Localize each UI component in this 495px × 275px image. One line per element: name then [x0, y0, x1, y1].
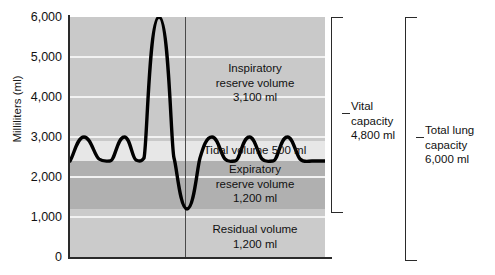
total-lung-capacity-bracket [405, 17, 417, 261]
label-vc-line2: capacity [351, 114, 395, 129]
y-tick-label-4000: 4,000 [16, 90, 62, 104]
label-tlc-line3: 6,000 ml [425, 152, 474, 167]
label-irv-line2: reserve volume [191, 76, 319, 91]
y-tick-label-3000: 3,000 [16, 130, 62, 144]
lung-volumes-spirogram-figure: Milliliters (ml) 6,000 5,000 4,000 3,000… [0, 0, 495, 275]
label-total-lung-capacity: Total lung capacity 6,000 ml [425, 123, 474, 167]
y-tick-label-6000: 6,000 [16, 10, 62, 24]
label-erv-line3: 1,200 ml [191, 191, 319, 206]
label-erv-line2: reserve volume [191, 177, 319, 192]
label-tlc-line2: capacity [425, 138, 474, 153]
label-expiratory-reserve-volume: Expiratory reserve volume 1,200 ml [191, 162, 319, 206]
spirogram-trace [70, 17, 325, 257]
label-vital-capacity: Vital capacity 4,800 ml [351, 99, 395, 143]
y-tick-label-1000: 1,000 [16, 210, 62, 224]
y-tick-label-0: 0 [16, 250, 62, 264]
label-vc-line1: Vital [351, 99, 395, 114]
label-rv-line1: Residual volume [191, 222, 319, 237]
label-vc-line3: 4,800 ml [351, 128, 395, 143]
y-tick-label-5000: 5,000 [16, 50, 62, 64]
label-tv-line1: Tidal volume 500 ml [191, 143, 319, 158]
label-rv-line2: 1,200 ml [191, 237, 319, 252]
label-residual-volume: Residual volume 1,200 ml [191, 222, 319, 251]
label-erv-line1: Expiratory [191, 162, 319, 177]
label-irv-line1: Inspiratory [191, 61, 319, 76]
y-tick-label-2000: 2,000 [16, 170, 62, 184]
y-axis-title: Milliliters (ml) [9, 59, 25, 159]
total-lung-capacity-bracket-tick [416, 137, 424, 138]
label-irv-line3: 3,100 ml [191, 90, 319, 105]
vital-capacity-bracket [331, 17, 343, 213]
label-tidal-volume: Tidal volume 500 ml [191, 143, 319, 158]
plot-area: Inspiratory reserve volume 3,100 ml Tida… [70, 17, 325, 257]
label-tlc-line1: Total lung [425, 123, 474, 138]
vital-capacity-bracket-tick [342, 113, 350, 114]
x-axis-line [68, 257, 332, 259]
label-inspiratory-reserve-volume: Inspiratory reserve volume 3,100 ml [191, 61, 319, 105]
